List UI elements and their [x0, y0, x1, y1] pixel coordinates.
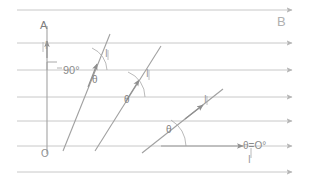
- conductor-theta-1-line: [63, 34, 110, 151]
- theta-2-label: θ: [124, 95, 130, 105]
- field-label-b: B: [277, 15, 286, 28]
- current-2-label: I: [105, 49, 108, 59]
- current-5-label: I: [248, 155, 251, 165]
- current-3-label: I: [146, 69, 149, 79]
- theta-zero-label: θ=O°: [243, 141, 266, 151]
- current-4-label: I: [204, 95, 207, 105]
- conductor-theta-1: [63, 34, 110, 151]
- current-1-label: I: [45, 41, 48, 51]
- conductor-theta-zero: [161, 146, 251, 158]
- right-angle-label: 90°: [63, 65, 80, 76]
- theta-1-label: θ: [92, 75, 98, 85]
- axis-top-label: A: [40, 20, 47, 31]
- right-angle-marker: [47, 62, 57, 70]
- theta-3-label: θ: [166, 125, 172, 135]
- axis-origin-label: O: [41, 149, 49, 159]
- conductor-theta-3-arrow: [185, 105, 203, 119]
- magnetic-field-diagram: A B O 90° θ θ θ θ=O° I I I I I: [0, 0, 313, 181]
